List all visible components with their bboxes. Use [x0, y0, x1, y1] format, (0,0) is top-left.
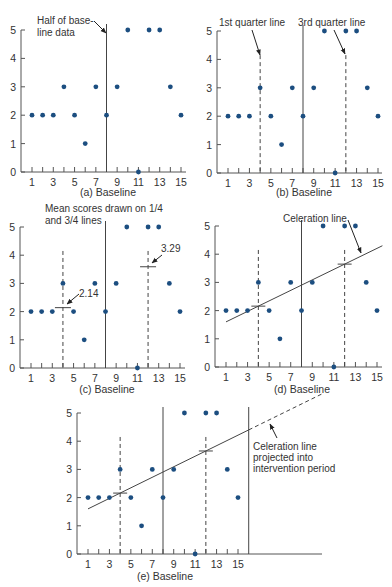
x-tick-label: 5: [71, 372, 77, 384]
data-point: [299, 308, 304, 313]
panel-e-annotation-line3: intervention period: [253, 463, 335, 474]
x-tick-label: 1: [28, 372, 34, 384]
data-point: [30, 113, 35, 118]
celeration-line: [88, 430, 249, 509]
y-tick-label: 3: [66, 463, 72, 475]
data-point: [279, 142, 284, 147]
x-tick-label: 5: [72, 176, 78, 188]
panel-a-arrow-icon: [94, 21, 106, 33]
data-point: [136, 170, 141, 175]
y-tick-label: 0: [206, 167, 212, 179]
panel-b-caption: (b) Baseline: [276, 186, 332, 198]
panel-d-annotation: Celeration line: [283, 213, 347, 224]
data-point: [331, 365, 336, 370]
data-point: [179, 113, 184, 118]
data-point: [157, 28, 162, 33]
y-tick-label: 2: [206, 110, 212, 122]
x-tick-label: 15: [371, 371, 383, 383]
data-point: [182, 411, 187, 416]
x-tick-label: 7: [149, 558, 155, 570]
x-tick-label: 15: [372, 177, 384, 189]
data-point: [322, 29, 327, 34]
data-point: [226, 114, 231, 119]
y-tick-label: 3: [9, 277, 15, 289]
data-point: [224, 308, 229, 313]
panel-b-arrow-q3-icon: [334, 30, 345, 54]
data-point: [124, 225, 129, 230]
data-point: [236, 495, 241, 500]
y-tick-label: 1: [9, 334, 15, 346]
x-tick-label: 15: [232, 558, 244, 570]
y-tick-label: 2: [204, 305, 210, 317]
panel-c-mean-q3-label: 3.29: [161, 243, 181, 254]
y-tick-label: 2: [10, 109, 16, 121]
panel-a-caption: (a) Baseline: [80, 186, 136, 198]
panel-b-annotation-q1: 1st quarter line: [219, 17, 286, 28]
x-tick-label: 9: [309, 371, 315, 383]
data-point: [375, 308, 380, 313]
data-point: [365, 85, 370, 90]
data-point: [93, 84, 98, 89]
data-point: [62, 84, 67, 89]
data-point: [82, 337, 87, 342]
y-tick-label: 1: [204, 333, 210, 345]
panel-c-arrow-mean-q1-icon: [67, 294, 79, 304]
data-point: [83, 141, 88, 146]
x-tick-label: 1: [225, 177, 231, 189]
panel-a-chart: 01234513579111315: [10, 24, 187, 188]
data-point: [311, 85, 316, 90]
data-point: [290, 85, 295, 90]
x-tick-label: 13: [154, 176, 166, 188]
data-point: [114, 281, 119, 286]
y-tick-label: 1: [10, 138, 16, 150]
x-tick-label: 13: [211, 558, 223, 570]
panel-b-annotation-q3: 3rd quarter line: [298, 17, 366, 28]
x-tick-label: 1: [223, 371, 229, 383]
data-point: [333, 171, 338, 176]
x-tick-label: 9: [171, 558, 177, 570]
x-tick-label: 11: [328, 371, 339, 383]
data-point: [256, 280, 261, 285]
y-tick-label: 0: [10, 166, 16, 178]
panel-c-chart: 01234513579111315: [9, 221, 186, 384]
data-point: [71, 309, 76, 314]
data-point: [321, 224, 326, 229]
x-tick-label: 3: [49, 372, 55, 384]
data-point: [301, 114, 306, 119]
x-tick-label: 3: [245, 371, 251, 383]
panel-c-annotation-line2: and 3/4 lines: [45, 215, 102, 226]
data-point: [139, 523, 144, 528]
data-point: [135, 366, 140, 371]
y-tick-label: 3: [10, 81, 16, 93]
data-point: [168, 84, 173, 89]
x-tick-label: 15: [174, 372, 186, 384]
panel-b-chart: 01234513579111315: [206, 25, 384, 189]
panel-c-annotation-line1: Mean scores drawn on 1/4: [45, 203, 163, 214]
y-tick-label: 5: [9, 221, 15, 233]
data-point: [150, 467, 155, 472]
data-point: [125, 28, 130, 33]
data-point: [236, 114, 241, 119]
panel-e-annotation-line2: projected into: [253, 452, 313, 463]
data-point: [115, 84, 120, 89]
data-point: [92, 281, 97, 286]
x-tick-label: 1: [85, 558, 91, 570]
y-tick-label: 3: [204, 276, 210, 288]
celeration-line-figure: 01234513579111315 01234513579111315 0123…: [0, 0, 392, 587]
data-point: [103, 309, 108, 314]
y-tick-label: 4: [66, 435, 72, 447]
data-point: [178, 309, 183, 314]
x-tick-label: 13: [350, 371, 362, 383]
data-point: [146, 225, 151, 230]
y-tick-label: 5: [204, 220, 210, 232]
data-point: [343, 29, 348, 34]
x-tick-label: 5: [266, 371, 272, 383]
data-point: [171, 467, 176, 472]
y-tick-label: 5: [66, 407, 72, 419]
data-point: [107, 495, 112, 500]
data-point: [156, 225, 161, 230]
x-tick-label: 7: [288, 371, 294, 383]
data-point: [268, 114, 273, 119]
panel-c-caption: (c) Baseline: [79, 383, 135, 395]
x-tick-label: 11: [190, 558, 201, 570]
